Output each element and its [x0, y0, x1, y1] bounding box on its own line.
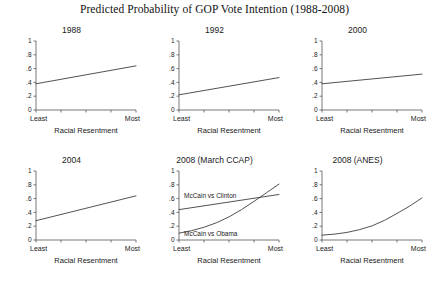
y-tick-label: .8 — [312, 181, 318, 188]
chart-panel: 2008 (March CCAP)1.8.6.4.20LeastMostRaci… — [143, 155, 286, 285]
y-tick-label: .8 — [169, 51, 175, 58]
y-tick-label: .2 — [26, 92, 32, 99]
y-tick-label: .8 — [169, 181, 175, 188]
series-annotation-mccain-obama: McCain vs Obama — [184, 230, 238, 237]
y-tick-label: .6 — [312, 195, 318, 202]
data-series-line — [36, 196, 136, 221]
y-tick-label: 0 — [314, 106, 318, 113]
y-tick-label: 1 — [28, 167, 32, 174]
y-tick-label: 0 — [171, 236, 175, 243]
y-tick-label: .6 — [312, 65, 318, 72]
panel-plot: 1.8.6.4.20LeastMostRacial Resentment — [286, 155, 429, 285]
x-axis-least-label: Least — [316, 245, 333, 252]
x-axis-title: Racial Resentment — [54, 126, 118, 135]
y-tick-label: .8 — [26, 181, 32, 188]
y-tick-label: .4 — [169, 209, 175, 216]
x-axis-title: Racial Resentment — [340, 256, 404, 265]
y-tick-label: 0 — [28, 236, 32, 243]
y-tick-label: .4 — [312, 209, 318, 216]
x-axis-most-label: Most — [125, 115, 140, 122]
data-series-line — [36, 66, 136, 84]
y-tick-label: 1 — [314, 167, 318, 174]
x-axis-least-label: Least — [173, 115, 190, 122]
x-axis-least-label: Least — [173, 245, 190, 252]
y-tick-label: .4 — [312, 79, 318, 86]
data-series-line — [322, 198, 422, 235]
y-tick-label: 1 — [314, 37, 318, 44]
chart-panel: 19881.8.6.4.20LeastMostRacial Resentment — [0, 25, 143, 155]
y-tick-label: .6 — [169, 65, 175, 72]
figure-root: Predicted Probability of GOP Vote Intent… — [0, 0, 429, 288]
data-series-line — [322, 74, 422, 84]
y-tick-label: .4 — [26, 209, 32, 216]
y-tick-label: .8 — [312, 51, 318, 58]
x-axis-title: Racial Resentment — [340, 126, 404, 135]
panel-plot: 1.8.6.4.20LeastMostRacial Resentment — [0, 25, 143, 155]
x-axis-least-label: Least — [30, 115, 47, 122]
x-axis-most-label: Most — [411, 115, 426, 122]
x-axis-title: Racial Resentment — [197, 256, 261, 265]
y-tick-label: .6 — [26, 65, 32, 72]
y-tick-label: 1 — [171, 167, 175, 174]
figure-title: Predicted Probability of GOP Vote Intent… — [0, 3, 429, 15]
panel-plot: 1.8.6.4.20LeastMostRacial Resentment — [286, 25, 429, 155]
x-axis-most-label: Most — [411, 245, 426, 252]
x-axis-title: Racial Resentment — [197, 126, 261, 135]
y-tick-label: .2 — [26, 222, 32, 229]
y-tick-label: 0 — [314, 236, 318, 243]
panel-plot: 1.8.6.4.20LeastMostRacial Resentment — [143, 25, 286, 155]
y-tick-label: 0 — [28, 106, 32, 113]
chart-panel: 19921.8.6.4.20LeastMostRacial Resentment — [143, 25, 286, 155]
y-tick-label: .4 — [26, 79, 32, 86]
y-tick-label: .6 — [26, 195, 32, 202]
data-series-line — [179, 78, 279, 95]
y-tick-label: 1 — [28, 37, 32, 44]
y-tick-label: .2 — [312, 222, 318, 229]
series-annotation-mccain-clinton: McCain vs Clinton — [184, 192, 237, 199]
x-axis-most-label: Most — [268, 245, 283, 252]
y-tick-label: 0 — [171, 106, 175, 113]
y-tick-label: .8 — [26, 51, 32, 58]
y-tick-label: 1 — [171, 37, 175, 44]
x-axis-least-label: Least — [30, 245, 47, 252]
y-tick-label: .4 — [169, 79, 175, 86]
y-tick-label: .2 — [169, 222, 175, 229]
y-tick-label: .6 — [169, 195, 175, 202]
chart-panel: 20041.8.6.4.20LeastMostRacial Resentment — [0, 155, 143, 285]
panel-plot: 1.8.6.4.20LeastMostRacial ResentmentMcCa… — [143, 155, 286, 285]
x-axis-most-label: Most — [125, 245, 140, 252]
y-tick-label: .2 — [312, 92, 318, 99]
chart-panel: 2008 (ANES)1.8.6.4.20LeastMostRacial Res… — [286, 155, 429, 285]
y-tick-label: .2 — [169, 92, 175, 99]
chart-panel: 20001.8.6.4.20LeastMostRacial Resentment — [286, 25, 429, 155]
x-axis-least-label: Least — [316, 115, 333, 122]
x-axis-title: Racial Resentment — [54, 256, 118, 265]
panel-plot: 1.8.6.4.20LeastMostRacial Resentment — [0, 155, 143, 285]
x-axis-most-label: Most — [268, 115, 283, 122]
